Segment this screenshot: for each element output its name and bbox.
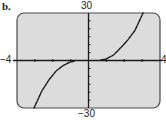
plot-area <box>0 0 166 120</box>
